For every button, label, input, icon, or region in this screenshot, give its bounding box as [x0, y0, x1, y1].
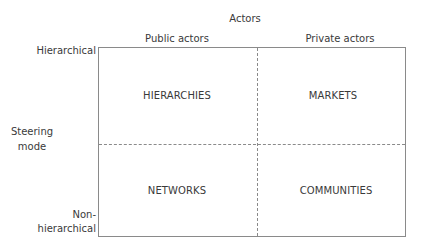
row-label-non-hierarchical-line1: Non- [72, 209, 96, 221]
row-label-hierarchical: Hierarchical [36, 45, 96, 57]
quadrant-networks: NETWORKS [148, 185, 206, 196]
row-label-non-hierarchical-line2: hierarchical [38, 223, 96, 235]
x-axis-title: Actors [229, 13, 261, 25]
vertical-divider [257, 48, 258, 236]
quadrant-markets: MARKETS [309, 90, 357, 101]
y-axis-title-line2: mode [18, 141, 46, 153]
quadrant-hierarchies: HIERARCHIES [143, 90, 211, 101]
y-axis-title-line1: Steering [11, 126, 53, 138]
horizontal-divider [99, 144, 405, 145]
column-label-private-actors: Private actors [305, 33, 374, 45]
quadrant-communities: COMMUNITIES [300, 185, 373, 196]
column-label-public-actors: Public actors [145, 33, 209, 45]
matrix-frame [98, 47, 406, 237]
